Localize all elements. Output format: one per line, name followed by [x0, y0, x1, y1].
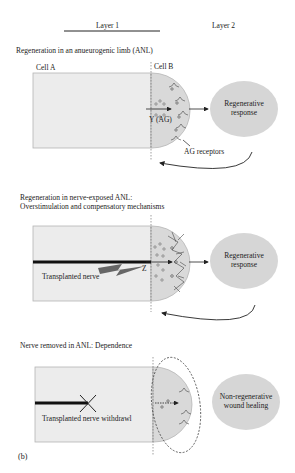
non-regenerative-label: Non-regenerative wound healing [212, 392, 280, 410]
panel2-title-line2: Overstimulation and compensatory mechani… [20, 202, 164, 211]
receptor-pointer [183, 140, 190, 146]
response-label-2: Regenerative response [210, 251, 278, 269]
ag-receptors-label: AG receptors [184, 147, 224, 156]
signal-y-label: Y (AG) [149, 115, 172, 124]
cell-a-body [33, 73, 151, 148]
transplanted-nerve-label: Transplanted nerve [42, 272, 99, 281]
layer1-label: Layer 1 [96, 21, 119, 30]
response-label-1: Regenerative response [210, 99, 278, 117]
panel1-title: Regeneration in an anueurogenic limb (AN… [16, 46, 153, 55]
signal-z-label: Z [142, 264, 147, 273]
cell-a-label: Cell A [36, 63, 55, 72]
feedback-arrow-2 [162, 305, 255, 320]
panel3-title: Nerve removed in ANL: Dependence [20, 341, 132, 350]
figure-label: (b) [18, 452, 27, 461]
layer2-label: Layer 2 [212, 21, 235, 30]
panel2-title-line1: Regeneration in nerve-exposed ANL: [20, 193, 132, 202]
nerve-withdrawl-label: Transplanted nerve withdrawl [42, 414, 132, 423]
cell-b-cap [151, 73, 190, 148]
cell-b-label: Cell B [154, 62, 173, 71]
